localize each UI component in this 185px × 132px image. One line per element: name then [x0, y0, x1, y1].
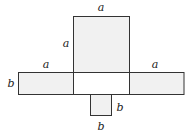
label-small-square-right: b	[116, 101, 123, 114]
net-diagram: a a a b a b b	[0, 0, 185, 132]
center-rectangle	[74, 73, 130, 95]
left-rectangle	[19, 73, 74, 95]
top-square	[74, 17, 130, 73]
small-square	[91, 95, 112, 116]
label-left-strip-top: a	[43, 58, 50, 71]
label-top-square-left: a	[63, 37, 70, 50]
label-small-square-bottom: b	[97, 120, 104, 132]
label-left-strip-left: b	[7, 77, 14, 90]
label-top-square-top: a	[98, 1, 105, 14]
right-rectangle	[130, 73, 185, 95]
label-right-strip-top: a	[152, 58, 159, 71]
